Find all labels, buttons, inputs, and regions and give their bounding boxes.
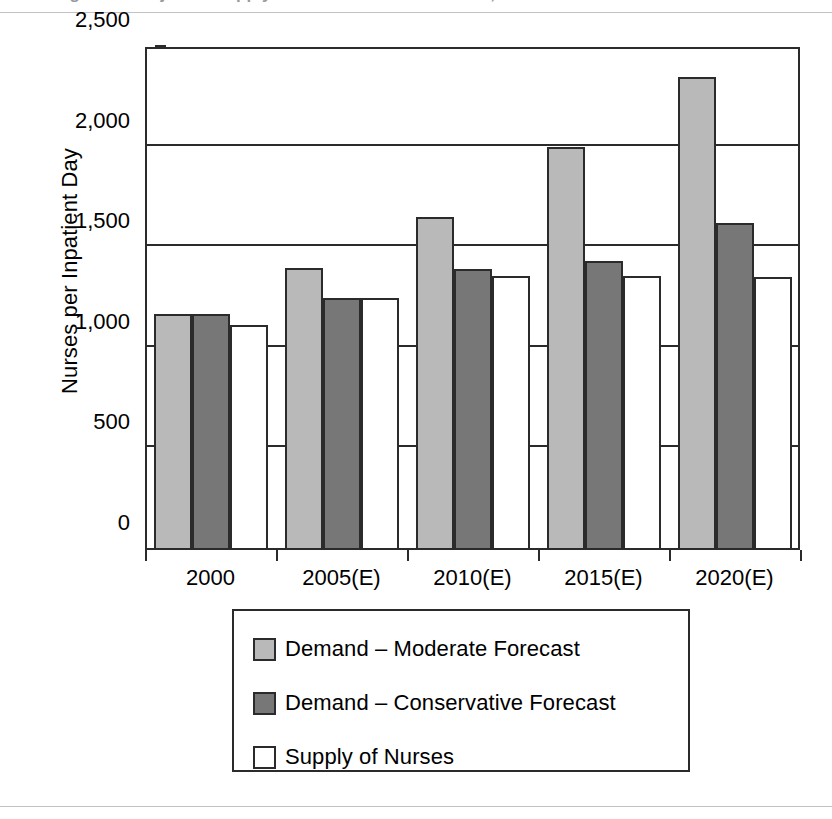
x-tick-mark-5 xyxy=(800,550,802,561)
x-tick-label-2020(E): 2020(E) xyxy=(695,565,773,591)
bar-group-2020(E) xyxy=(669,47,800,550)
y-tick-label-500: 500 xyxy=(20,409,130,435)
bar-2005(E)-series-1[interactable] xyxy=(285,268,323,550)
bar-group-2010(E) xyxy=(407,47,538,550)
x-tick-mark-1 xyxy=(276,550,278,561)
y-tick-label-1500: 1,500 xyxy=(20,208,130,234)
bar-2015(E)-series-1[interactable] xyxy=(547,147,585,550)
y-tick-label-0: 0 xyxy=(20,510,130,536)
y-axis-tick-labels: 05001,0001,5002,0002,500 xyxy=(18,47,130,550)
legend-label-1: Demand – Moderate Forecast xyxy=(285,636,580,662)
y-tick-label-2500: 2,500 xyxy=(20,7,130,33)
legend-swatch-icon-2 xyxy=(253,692,276,715)
bar-2020(E)-series-2[interactable] xyxy=(716,223,754,550)
legend-item-1[interactable]: Demand – Moderate Forecast xyxy=(253,627,688,671)
x-tick-label-2005(E): 2005(E) xyxy=(302,565,380,591)
bar-2000-series-1[interactable] xyxy=(154,314,192,550)
legend-item-2[interactable]: Demand – Conservative Forecast xyxy=(253,681,688,725)
chart-figure: Nurses per Inpatient Day 05001,0001,5002… xyxy=(0,13,832,805)
bar-2010(E)-series-2[interactable] xyxy=(454,269,492,550)
bar-2005(E)-series-2[interactable] xyxy=(323,298,361,551)
x-tick-label-2015(E): 2015(E) xyxy=(564,565,642,591)
bar-group-2015(E) xyxy=(538,47,669,550)
bar-group-2005(E) xyxy=(276,47,407,550)
bar-2020(E)-series-3[interactable] xyxy=(754,277,792,550)
bar-2015(E)-series-3[interactable] xyxy=(623,276,661,550)
legend-label-2: Demand – Conservative Forecast xyxy=(285,690,616,716)
x-tick-mark-3 xyxy=(538,550,540,561)
figure-caption-cutoff: Figure 3. Projected supply of and demand… xyxy=(0,0,832,7)
legend-swatch-icon-1 xyxy=(253,638,276,661)
bars-layer xyxy=(145,47,800,550)
x-tick-mark-2 xyxy=(407,550,409,561)
x-axis-tick-labels: 20002005(E)2010(E)2015(E)2020(E) xyxy=(145,565,800,595)
bar-2010(E)-series-1[interactable] xyxy=(416,217,454,550)
legend-swatch-icon-3 xyxy=(253,746,276,769)
y-tick-label-2000: 2,000 xyxy=(20,108,130,134)
legend-item-3[interactable]: Supply of Nurses xyxy=(253,735,688,779)
bar-2020(E)-series-1[interactable] xyxy=(678,77,716,550)
x-axis-ticks xyxy=(145,550,800,562)
legend-label-3: Supply of Nurses xyxy=(285,744,454,770)
bar-2000-series-2[interactable] xyxy=(192,314,230,550)
bar-2000-series-3[interactable] xyxy=(230,325,268,550)
bottom-divider-rule xyxy=(0,806,832,807)
chart-legend: Demand – Moderate ForecastDemand – Conse… xyxy=(232,609,690,772)
bar-2015(E)-series-2[interactable] xyxy=(585,261,623,550)
figure-caption-text: Figure 3. Projected supply of and demand… xyxy=(54,0,587,4)
x-tick-mark-4 xyxy=(669,550,671,561)
y-tick-label-1000: 1,000 xyxy=(20,309,130,335)
x-tick-label-2000: 2000 xyxy=(186,565,235,591)
x-tick-mark-0 xyxy=(145,550,147,561)
bar-2005(E)-series-3[interactable] xyxy=(361,298,399,551)
bar-group-2000 xyxy=(145,47,276,550)
bar-2010(E)-series-3[interactable] xyxy=(492,276,530,550)
x-tick-label-2010(E): 2010(E) xyxy=(433,565,511,591)
